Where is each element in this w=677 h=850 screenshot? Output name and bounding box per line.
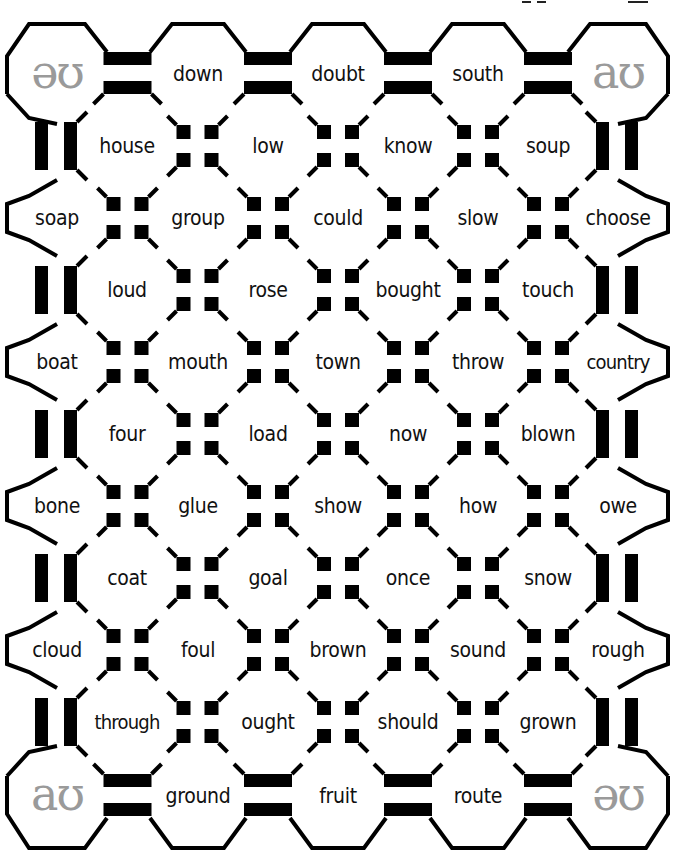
word-cell-south[interactable]: south <box>452 64 503 85</box>
top-edge-mark <box>522 1 531 3</box>
connector-block <box>555 485 569 499</box>
bridge-bar <box>625 698 638 746</box>
word-cell-ought[interactable]: ought <box>241 712 294 733</box>
word-cell-owe[interactable]: owe <box>599 496 637 517</box>
word-cell-bone[interactable]: bone <box>34 496 80 517</box>
word-cell-through[interactable]: through <box>94 712 159 732</box>
word-cell-soup[interactable]: soup <box>526 136 570 157</box>
word-cell-could[interactable]: could <box>313 208 363 229</box>
word-cell-cloud[interactable]: cloud <box>32 640 82 661</box>
connector-tick <box>149 671 158 680</box>
word-cell-house[interactable]: house <box>99 136 154 157</box>
word-cell-should[interactable]: should <box>378 712 439 733</box>
connector-tick <box>499 116 508 125</box>
connector-tick <box>378 476 387 485</box>
word-cell-snow[interactable]: snow <box>524 568 572 589</box>
connector-block <box>555 341 569 355</box>
connector-block <box>555 629 569 643</box>
word-cell-fruit[interactable]: fruit <box>319 786 357 807</box>
connector-tick <box>448 455 457 464</box>
bridge-bar <box>104 803 152 816</box>
word-cell-low[interactable]: low <box>252 136 283 157</box>
word-cell-bought[interactable]: bought <box>375 280 440 301</box>
word-cell-ground[interactable]: ground <box>165 786 230 807</box>
connector-tick <box>308 743 317 752</box>
word-cell-grown[interactable]: grown <box>520 712 577 733</box>
word-cell-group[interactable]: group <box>171 208 224 229</box>
word-cell-rough[interactable]: rough <box>591 640 644 661</box>
word-cell-coat[interactable]: coat <box>107 568 147 589</box>
bridge-tick <box>77 544 87 554</box>
connector-tick <box>308 260 317 269</box>
connector-tick <box>499 311 508 320</box>
connector-block <box>205 557 219 571</box>
connector-tick <box>429 332 438 341</box>
connector-block <box>457 441 471 455</box>
connector-block <box>485 441 499 455</box>
bridge-tick <box>234 94 244 104</box>
word-cell-route[interactable]: route <box>454 786 502 807</box>
connector-tick <box>308 599 317 608</box>
connector-block <box>345 729 359 743</box>
bridge-bar <box>625 410 638 458</box>
connector-tick <box>149 527 158 536</box>
word-cell-foul[interactable]: foul <box>181 640 215 661</box>
connector-block <box>527 657 541 671</box>
bridge-bar <box>596 122 609 170</box>
corner-sound-bottom-left: aʊ <box>31 771 83 817</box>
connector-tick <box>168 548 177 557</box>
connector-tick <box>359 599 368 608</box>
connector-tick <box>98 332 107 341</box>
word-cell-know[interactable]: know <box>384 136 433 157</box>
connector-block <box>415 225 429 239</box>
connector-tick <box>238 527 247 536</box>
connector-tick <box>168 599 177 608</box>
connector-tick <box>569 671 578 680</box>
word-cell-down[interactable]: down <box>173 64 223 85</box>
word-cell-blown[interactable]: blown <box>521 424 576 445</box>
word-cell-how[interactable]: how <box>459 496 497 517</box>
connector-tick <box>98 671 107 680</box>
word-cell-loud[interactable]: loud <box>107 280 147 301</box>
connector-block <box>345 153 359 167</box>
connector-block <box>387 341 401 355</box>
word-cell-once[interactable]: once <box>386 568 430 589</box>
connector-tick <box>448 311 457 320</box>
word-cell-boat[interactable]: boat <box>36 352 77 373</box>
word-cell-country[interactable]: country <box>586 352 649 372</box>
bridge-bar <box>384 52 432 65</box>
bridge-bar <box>524 52 572 65</box>
connector-tick <box>149 188 158 197</box>
word-cell-touch[interactable]: touch <box>522 280 574 301</box>
word-cell-sound[interactable]: sound <box>450 640 506 661</box>
word-cell-rose[interactable]: rose <box>248 280 287 301</box>
connector-tick <box>289 476 298 485</box>
connector-block <box>345 701 359 715</box>
word-cell-glue[interactable]: glue <box>178 496 218 517</box>
word-cell-choose[interactable]: choose <box>585 208 650 229</box>
word-cell-now[interactable]: now <box>389 424 427 445</box>
connector-tick <box>219 404 228 413</box>
connector-tick <box>448 599 457 608</box>
word-cell-throw[interactable]: throw <box>452 352 504 373</box>
word-cell-four[interactable]: four <box>109 424 146 445</box>
word-cell-mouth[interactable]: mouth <box>168 352 228 373</box>
connector-tick <box>219 743 228 752</box>
connector-block <box>415 369 429 383</box>
connector-tick <box>289 188 298 197</box>
word-cell-goal[interactable]: goal <box>248 568 287 589</box>
word-cell-brown[interactable]: brown <box>310 640 367 661</box>
connector-tick <box>378 383 387 392</box>
word-cell-town[interactable]: town <box>315 352 360 373</box>
word-cell-slow[interactable]: slow <box>458 208 499 229</box>
word-cell-soap[interactable]: soap <box>35 208 79 229</box>
connector-tick <box>98 620 107 629</box>
bridge-tick <box>77 688 87 698</box>
bridge-tick <box>77 170 87 180</box>
word-cell-load[interactable]: load <box>248 424 287 445</box>
word-cell-show[interactable]: show <box>314 496 362 517</box>
connector-block <box>387 485 401 499</box>
connector-block <box>415 629 429 643</box>
connector-block <box>107 657 121 671</box>
word-cell-doubt[interactable]: doubt <box>311 64 364 85</box>
